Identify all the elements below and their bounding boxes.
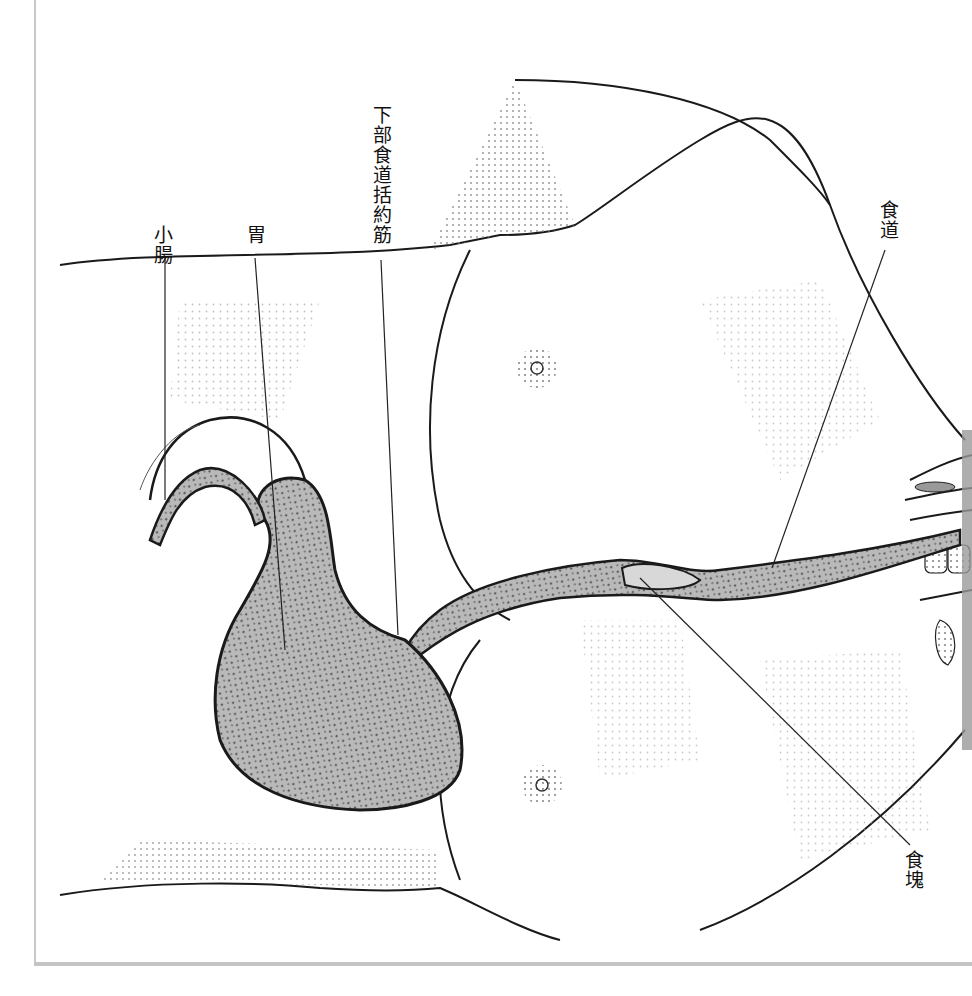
label-lower-esophageal-sphincter: 下部食道括約筋 bbox=[371, 105, 390, 245]
anatomy-illustration bbox=[0, 0, 972, 996]
label-esophagus: 食道 bbox=[878, 200, 897, 240]
torso-outline bbox=[60, 80, 965, 940]
label-food-bolus: 食塊 bbox=[903, 850, 922, 890]
nipple-lower bbox=[522, 765, 562, 805]
esophagus bbox=[405, 530, 960, 655]
label-small-intestine: 小腸 bbox=[152, 225, 171, 265]
leader-sphincter bbox=[381, 260, 398, 635]
neck-structures bbox=[905, 430, 972, 750]
label-stomach: 胃 bbox=[245, 225, 264, 245]
food-bolus bbox=[622, 564, 700, 589]
nipple-upper bbox=[517, 348, 557, 388]
